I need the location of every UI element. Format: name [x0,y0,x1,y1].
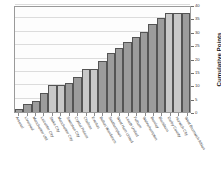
y-axis-tick-label: 40 [195,4,200,8]
y-axis-tick-label: 20 [195,57,200,61]
x-axis-labels: ArsenalLiverpoolManchester UtdLeicester … [14,116,191,170]
gridline [15,4,190,5]
bar [182,13,190,112]
y-axis-tick [191,19,194,20]
bar [148,24,156,112]
x-axis-label-cell: Arsenal [14,116,22,170]
y-axis-tick [191,6,194,7]
x-axis-label-cell: Derby County [166,116,174,170]
bar [15,109,23,112]
x-axis-label-cell: Southampton [107,116,115,170]
bar [40,93,48,112]
x-axis-label-cell: Blackburn [157,116,165,170]
x-axis-label-cell: Swansea City [65,116,73,170]
bar [123,42,131,112]
plot-area [14,6,191,113]
x-axis-label-cell: Burnley [149,116,157,170]
x-axis-label-cell: Bolton Wanderers [98,116,106,170]
bar [73,77,81,112]
y-axis-tick-label: 30 [195,31,200,35]
y-axis-tick [191,100,194,101]
y-axis-title: Cumulative Points [213,6,221,113]
y-axis-tick [191,86,194,87]
bar [173,13,181,112]
y-axis-tick-label: 35 [195,17,200,21]
y-axis-tick [191,113,194,114]
bar [32,101,40,112]
x-axis-label-cell: Liverpool [22,116,30,170]
y-axis-tick [191,46,194,47]
x-axis-label-cell: West Ham United [115,116,123,170]
bar [65,83,73,112]
y-axis-tick [191,60,194,61]
bar-series [15,7,190,112]
y-axis-tick-label: 5 [195,98,197,102]
x-axis-label-cell: Everton [90,116,98,170]
y-axis-tick-label: 15 [195,71,200,75]
x-axis-label-cell: Wolverhampton [140,116,148,170]
x-axis-label-cell: West Bromwich Albion [182,116,190,170]
bar [23,104,31,112]
x-axis-label: West Bromwich Albion [183,116,205,151]
bar [132,37,140,112]
bar [140,32,148,112]
bar [107,53,115,112]
x-axis-label-cell: Norwich City [174,116,182,170]
x-axis-label-cell: Leeds United [123,116,131,170]
bar [157,18,165,112]
bar [48,85,56,112]
cumulative-points-bar-chart: 0510152025303540 Cumulative Points Arsen… [0,0,221,170]
y-axis-tick [191,73,194,74]
y-axis-tick-label: 25 [195,44,200,48]
y-axis-tick-label: 0 [195,111,197,115]
bar [98,61,106,112]
x-axis-label-cell: Crystal Palace [73,116,81,170]
y-axis-tick-label: 10 [195,84,200,88]
bar [90,69,98,112]
bar [165,13,173,112]
x-axis-label-cell: Manchester Utd [31,116,39,170]
x-axis-label-cell: Stoke City [48,116,56,170]
x-axis-label-cell: Chelsea [81,116,89,170]
bar [57,85,65,112]
x-axis-label-cell: Fulham [132,116,140,170]
x-axis-label-cell: Manchester City [56,116,64,170]
bar [82,69,90,112]
bar [115,48,123,112]
x-axis-label-cell: Leicester City [39,116,47,170]
y-axis: 0510152025303540 [191,6,203,113]
y-axis-tick [191,33,194,34]
